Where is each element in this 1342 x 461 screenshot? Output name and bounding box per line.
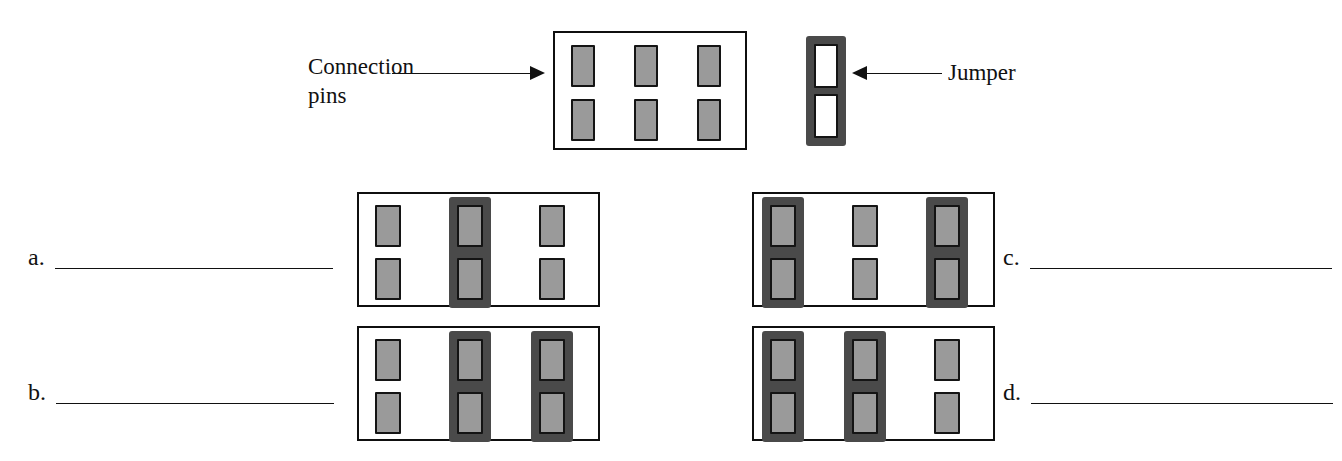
answer-blank-d[interactable] bbox=[1031, 402, 1333, 404]
connection-pin[interactable] bbox=[852, 205, 878, 247]
connection-pin[interactable] bbox=[571, 99, 595, 141]
answer-blank-a[interactable] bbox=[55, 267, 333, 269]
answer-row-b: b. bbox=[28, 380, 334, 404]
connection-pin[interactable] bbox=[457, 339, 483, 381]
option-b-pin-header[interactable] bbox=[357, 326, 600, 441]
answer-label-c: c. bbox=[1003, 245, 1020, 269]
connection-pin[interactable] bbox=[375, 392, 401, 434]
connection-pin[interactable] bbox=[457, 392, 483, 434]
option-d-pin-header[interactable] bbox=[752, 326, 995, 441]
connection-pin[interactable] bbox=[539, 205, 565, 247]
connection-pin[interactable] bbox=[852, 392, 878, 434]
connection-pin[interactable] bbox=[539, 392, 565, 434]
connection-pin[interactable] bbox=[457, 205, 483, 247]
standalone-jumper[interactable] bbox=[806, 36, 846, 146]
connection-pin[interactable] bbox=[697, 45, 721, 87]
connection-pin[interactable] bbox=[934, 205, 960, 247]
connection-pin[interactable] bbox=[770, 339, 796, 381]
connection-pin[interactable] bbox=[934, 339, 960, 381]
jumper-label: Jumper bbox=[948, 58, 1128, 87]
answer-row-d: d. bbox=[1003, 380, 1333, 404]
connection-pin[interactable] bbox=[770, 258, 796, 300]
reference-pin-header[interactable] bbox=[553, 31, 747, 150]
diagram-canvas: Connection pins Jumper a. b. c. d. bbox=[0, 0, 1342, 461]
connection-pin[interactable] bbox=[770, 205, 796, 247]
connection-pin[interactable] bbox=[934, 258, 960, 300]
connection-pin[interactable] bbox=[375, 258, 401, 300]
connection-pin[interactable] bbox=[457, 258, 483, 300]
connection-pin[interactable] bbox=[375, 339, 401, 381]
answer-blank-c[interactable] bbox=[1030, 267, 1332, 269]
arrow-right-icon bbox=[530, 66, 545, 80]
answer-row-a: a. bbox=[28, 245, 333, 269]
connection-pin[interactable] bbox=[571, 45, 595, 87]
answer-label-b: b. bbox=[28, 380, 46, 404]
connection-pins-arrow-line bbox=[392, 73, 532, 74]
connection-pin[interactable] bbox=[770, 392, 796, 434]
connection-pin[interactable] bbox=[934, 392, 960, 434]
connection-pin[interactable] bbox=[634, 99, 658, 141]
jumper-hole bbox=[814, 44, 838, 88]
answer-label-a: a. bbox=[28, 245, 45, 269]
option-c-pin-header[interactable] bbox=[752, 192, 995, 307]
connection-pins-label: Connection pins bbox=[308, 52, 508, 110]
jumper-arrow-line bbox=[866, 73, 942, 74]
option-a-pin-header[interactable] bbox=[357, 192, 600, 307]
connection-pin[interactable] bbox=[852, 339, 878, 381]
connection-pin[interactable] bbox=[697, 99, 721, 141]
answer-blank-b[interactable] bbox=[56, 402, 334, 404]
connection-pin[interactable] bbox=[852, 258, 878, 300]
answer-label-d: d. bbox=[1003, 380, 1021, 404]
connection-pin[interactable] bbox=[539, 258, 565, 300]
connection-pin[interactable] bbox=[375, 205, 401, 247]
connection-pin[interactable] bbox=[634, 45, 658, 87]
jumper-hole bbox=[814, 94, 838, 138]
arrow-left-icon bbox=[852, 66, 867, 80]
answer-row-c: c. bbox=[1003, 245, 1332, 269]
connection-pin[interactable] bbox=[539, 339, 565, 381]
